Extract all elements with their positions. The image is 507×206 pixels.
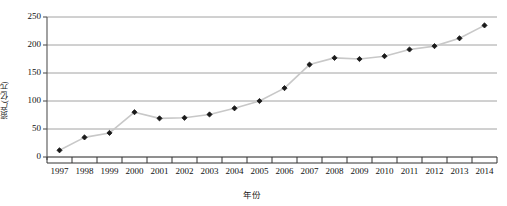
series-line xyxy=(60,25,485,150)
series-markers xyxy=(57,23,487,153)
plot-area xyxy=(0,0,507,206)
axis-lines xyxy=(47,17,497,163)
gridlines xyxy=(47,17,497,157)
axis-ticks xyxy=(43,17,497,163)
asset-trend-line-chart: 资产(亿元) 年份 050100150200250 19971998199920… xyxy=(0,0,507,206)
